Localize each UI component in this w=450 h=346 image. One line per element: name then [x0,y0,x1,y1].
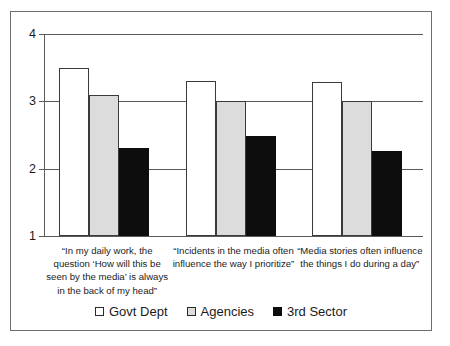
legend-label: Agencies [201,305,254,318]
category-label-2: “Incidents in the media often influence … [170,244,296,270]
legend-label: Govt Dept [109,305,168,318]
y-tick-mark-1 [39,236,44,237]
y-tick-label-4: 4 [29,28,36,41]
bar-agencies-group-1 [89,95,119,236]
bar-agencies-group-2 [216,101,246,236]
bar-series-layer [44,34,423,236]
plot-area: 1234 [44,34,423,236]
bar-govt-dept-group-2 [186,81,216,236]
y-tick-label-3: 3 [29,95,36,108]
bar-govt-dept-group-3 [312,82,342,236]
legend-swatch-black [273,307,282,316]
y-tick-label-1: 1 [29,230,36,243]
legend-item-3rd-sector[interactable]: 3rd Sector [273,305,347,318]
bar-3rd-sector-group-3 [372,151,402,237]
y-tick-label-2: 2 [29,162,36,175]
category-label-3: “Media stories often influence the thing… [297,244,423,270]
category-axis-labels: “In my daily work, the question ‘How wil… [44,244,423,306]
bar-3rd-sector-group-2 [246,136,276,236]
legend-item-agencies[interactable]: Agencies [187,305,254,318]
chart-figure: 1234 “In my daily work, the question ‘Ho… [10,11,432,331]
chart-legend: Govt DeptAgencies3rd Sector [11,305,431,318]
gridline-1 [44,236,423,237]
bar-agencies-group-3 [342,101,372,236]
bar-3rd-sector-group-1 [119,148,149,236]
category-label-1: “In my daily work, the question ‘How wil… [44,244,170,297]
bar-govt-dept-group-1 [59,68,89,236]
legend-label: 3rd Sector [287,305,347,318]
legend-swatch-white [95,307,104,316]
legend-swatch-gray [187,307,196,316]
legend-item-govt-dept[interactable]: Govt Dept [95,305,168,318]
